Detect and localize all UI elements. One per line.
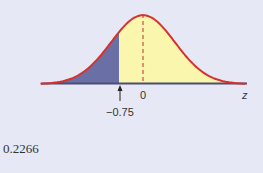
arrow-up-icon [118,85,123,91]
axis-label-z: z [242,90,248,101]
tick-label-zero: 0 [140,90,146,101]
normal-curve-chart [0,0,263,173]
tick-label-cut: −0.75 [106,107,134,118]
unshaded-area [119,15,245,84]
area-answer: 0.2266 [3,141,39,157]
shaded-left-tail [41,32,119,84]
